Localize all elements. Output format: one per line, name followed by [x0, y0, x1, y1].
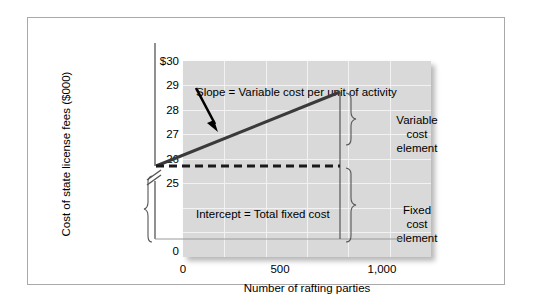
fixed-cost-line2: cost — [385, 217, 449, 231]
y-tick-26: 26 — [166, 154, 179, 166]
fixed-cost-line3: element — [385, 231, 449, 245]
y-tick-29: 29 — [166, 80, 179, 92]
y-tick-25: 25 — [166, 178, 179, 190]
intercept-annotation-text: Intercept = Total fixed cost — [196, 208, 330, 220]
figure-frame: $30 29 28 27 26 25 0 0 500 1,000 Cost of… — [27, 17, 505, 285]
x-tick-500: 500 — [257, 264, 303, 276]
fixed-cost-line1: Fixed — [385, 203, 449, 217]
y-tick-0: 0 — [173, 246, 179, 258]
gridline-horizontal — [183, 110, 431, 111]
fixed-cost-element-label: Fixed cost element — [385, 203, 449, 245]
y-tick-27: 27 — [166, 129, 179, 141]
variable-cost-line1: Variable — [385, 113, 449, 127]
y-tick-28: 28 — [166, 105, 179, 117]
slope-annotation-text: Slope = Variable cost per unit of activi… — [196, 86, 397, 98]
x-tick-1000: 1,000 — [359, 264, 405, 276]
x-axis-title: Number of rafting parties — [183, 282, 431, 294]
variable-cost-line2: cost — [385, 127, 449, 141]
x-tick-0: 0 — [160, 264, 206, 276]
gridline-horizontal — [183, 183, 431, 184]
y-axis-tick-labels: $30 29 28 27 26 25 0 — [138, 18, 179, 303]
variable-cost-element-label: Variable cost element — [385, 113, 449, 155]
gridline-horizontal — [183, 159, 431, 160]
y-tick-30: $30 — [160, 56, 179, 68]
variable-cost-line3: element — [385, 141, 449, 155]
y-axis-title: Cost of state license fees ($000) — [60, 54, 72, 254]
